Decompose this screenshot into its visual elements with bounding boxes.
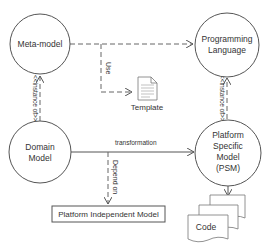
instance-of-right-label: <<instance of>> (219, 75, 226, 122)
psm-label-2: Specific (213, 141, 244, 151)
depend-on-label: Depend on (111, 160, 119, 194)
node-psm[interactable]: Platform Specific Model (PSM) (195, 120, 261, 186)
pim-label: Platform Independent Model (58, 210, 159, 219)
domain-model-label-2: Model (28, 153, 51, 163)
use-label: Use (105, 62, 112, 75)
node-pim[interactable]: Platform Independent Model (52, 206, 165, 222)
diagram-canvas: Use <<instance of>> <<instance of>> tran… (0, 0, 265, 248)
transformation-label: transformation (115, 139, 157, 146)
psm-label-3: Model (216, 152, 239, 162)
programming-language-label-2: Language (208, 45, 246, 55)
node-domain-model[interactable]: Domain Model (9, 121, 71, 183)
template-label: Template (131, 103, 164, 112)
programming-language-label-1: Programming (201, 34, 252, 44)
meta-model-label: Meta-model (18, 39, 63, 49)
psm-label-4: (PSM) (216, 163, 240, 173)
document-icon (138, 77, 157, 100)
node-code[interactable]: Code (188, 195, 245, 242)
node-template[interactable]: Template (131, 77, 164, 112)
instance-of-left-label: <<instance of>> (32, 75, 39, 122)
psm-label-1: Platform (212, 130, 244, 140)
domain-model-label-1: Domain (25, 142, 55, 152)
node-meta-model[interactable]: Meta-model (10, 14, 70, 74)
node-programming-language[interactable]: Programming Language (195, 13, 259, 77)
code-label: Code (196, 222, 217, 232)
